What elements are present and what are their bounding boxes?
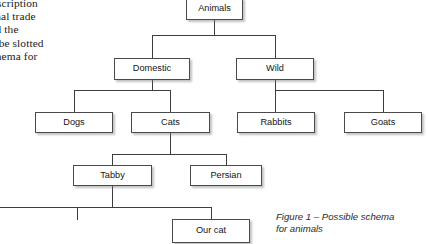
- node-our-cat[interactable]: Our cat: [172, 219, 250, 243]
- body-text-line-5: evant schema for: [0, 50, 113, 63]
- node-cats[interactable]: Cats: [131, 112, 210, 133]
- body-text-line-6: epts.: [0, 63, 113, 76]
- connector-dogs-drop: [74, 90, 75, 112]
- connector-wild-bus: [275, 90, 383, 91]
- node-domestic[interactable]: Domestic: [114, 58, 190, 80]
- connector-domestic-drop: [152, 35, 153, 58]
- node-wild-label: Wild: [266, 64, 284, 73]
- node-persian[interactable]: Persian: [190, 165, 262, 186]
- figure-caption-line-2: for animals: [276, 223, 426, 235]
- connector-animals-bus: [152, 35, 275, 36]
- node-wild[interactable]: Wild: [236, 58, 314, 80]
- body-text-line-1: y, the description: [0, 0, 113, 10]
- node-animals-label: Animals: [198, 4, 231, 13]
- connector-domestic-bus: [74, 90, 171, 91]
- node-dogs[interactable]: Dogs: [35, 112, 113, 133]
- node-rabbits-label: Rabbits: [260, 118, 291, 127]
- body-text-line-2: ne national trade: [0, 10, 113, 23]
- body-text-line-4: may not be slotted: [0, 37, 113, 50]
- connector-domestic-stem: [152, 80, 153, 90]
- node-tabby-label: Tabby: [100, 171, 125, 180]
- connector-cats-stem: [170, 133, 171, 154]
- node-animals[interactable]: Animals: [186, 0, 243, 20]
- connector-tabby-bus: [0, 207, 211, 208]
- connector-cats-bus: [112, 154, 227, 155]
- body-text-line-3: restricted the: [0, 23, 113, 36]
- node-domestic-label: Domestic: [133, 64, 171, 73]
- connector-tabby-stem: [112, 186, 113, 207]
- connector-persian-drop: [226, 154, 227, 165]
- figure-page: y, the description ne national trade res…: [0, 0, 428, 244]
- connector-wild-stem: [275, 80, 276, 90]
- node-rabbits[interactable]: Rabbits: [237, 112, 315, 133]
- figure-caption: Figure 1 – Possible schema for animals: [276, 211, 426, 234]
- connector-cats-drop: [170, 90, 171, 112]
- figure-caption-line-1: Figure 1 – Possible schema: [276, 211, 426, 223]
- connector-ourcat-drop: [211, 207, 212, 219]
- node-cats-label: Cats: [161, 118, 180, 127]
- connector-rabbits-drop: [275, 90, 276, 112]
- connector-wild-drop: [275, 35, 276, 58]
- node-tabby[interactable]: Tabby: [73, 165, 152, 186]
- node-persian-label: Persian: [210, 171, 241, 180]
- connector-tabby-child-drop: [77, 207, 78, 220]
- connector-goats-drop: [383, 90, 384, 112]
- node-dogs-label: Dogs: [63, 118, 84, 127]
- node-our-cat-label: Our cat: [196, 226, 226, 235]
- node-goats[interactable]: Goats: [344, 112, 422, 133]
- connector-tabby-drop: [112, 154, 113, 165]
- body-text-column: y, the description ne national trade res…: [0, 0, 113, 76]
- connector-animals-stem: [214, 20, 215, 35]
- node-goats-label: Goats: [371, 118, 396, 127]
